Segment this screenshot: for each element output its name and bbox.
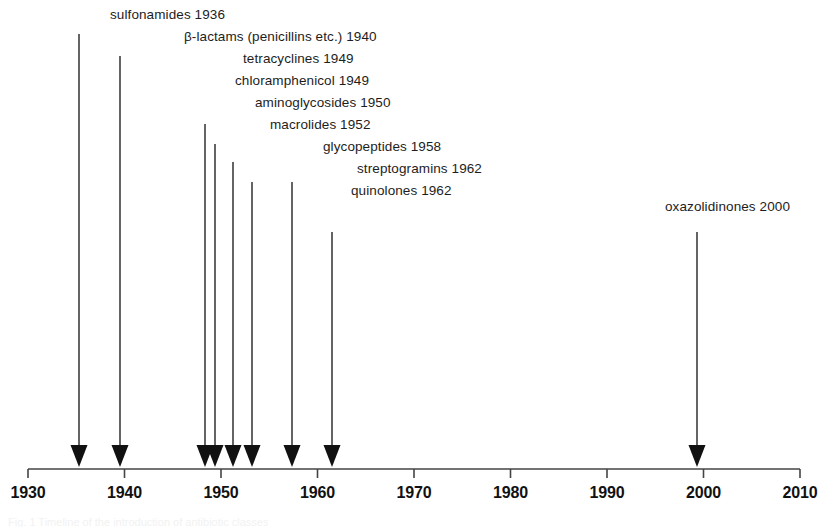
antibiotic-timeline-figure: sulfonamides 1936β-lactams (penicillins … [0, 0, 831, 532]
axis-tick-label: 1960 [300, 484, 335, 502]
axis-tick-label: 1980 [493, 484, 528, 502]
event-arrow-aminoglycosides [225, 162, 242, 467]
event-arrow-glycopeptides [284, 182, 301, 467]
event-arrow-streptogramins [324, 232, 341, 467]
event-arrow-beta-lactams [112, 56, 129, 467]
axis-tick-label: 2000 [686, 484, 721, 502]
arrow-head [225, 445, 242, 467]
cropped-caption-remnant: Fig. 1 Timeline of the introduction of a… [8, 516, 268, 527]
event-arrow-tetracyclines [197, 124, 214, 467]
event-arrow-chloramphenicol [207, 144, 224, 467]
axis-tick-label: 1990 [590, 484, 625, 502]
arrow-head [71, 445, 88, 467]
arrow-head [689, 445, 706, 467]
arrow-head [324, 445, 341, 467]
arrow-head [284, 445, 301, 467]
axis-tick-label: 2010 [783, 484, 818, 502]
timeline-graphics [0, 0, 831, 532]
axis-tick-label: 1970 [397, 484, 432, 502]
event-arrow-oxazolidinones [689, 232, 706, 467]
event-arrow-group [71, 34, 706, 467]
axis-tick-label: 1930 [11, 484, 46, 502]
event-arrow-sulfonamides [71, 34, 88, 467]
axis-tick-group [28, 469, 800, 478]
arrow-head [112, 445, 129, 467]
arrow-head [244, 445, 261, 467]
axis-tick-label: 1950 [204, 484, 239, 502]
event-arrow-macrolides [244, 182, 261, 467]
axis-tick-label: 1940 [107, 484, 142, 502]
timeline-axis [28, 469, 800, 478]
